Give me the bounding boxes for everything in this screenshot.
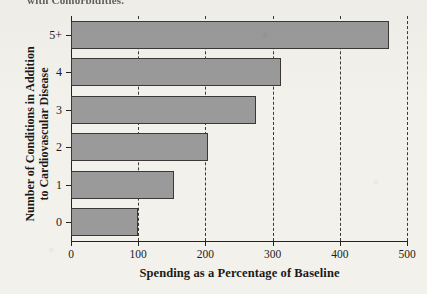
x-tick-label-500: 500 (398, 248, 415, 260)
bar-chart-figure: Spending as a Percentage of Baseline Num… (0, 0, 427, 294)
x-tick-200 (205, 241, 206, 246)
gridline-x-400 (340, 16, 341, 241)
bar-2 (71, 133, 208, 161)
bar-3 (71, 96, 256, 124)
gridline-x-500 (407, 16, 408, 241)
y-tick-label-3: 3 (36, 102, 62, 117)
y-tick-3 (66, 110, 71, 111)
bar-0 (71, 208, 138, 236)
bar-5+ (71, 21, 389, 49)
y-tick-1 (66, 185, 71, 186)
y-tick-label-1: 1 (36, 177, 62, 192)
y-tick-0 (66, 222, 71, 223)
bar-1 (71, 171, 174, 199)
y-tick-4 (66, 72, 71, 73)
x-axis-label: Spending as a Percentage of Baseline (71, 266, 408, 281)
x-tick-label-100: 100 (130, 248, 147, 260)
x-tick-label-200: 200 (197, 248, 214, 260)
x-axis-line (71, 241, 408, 242)
x-tick-400 (340, 241, 341, 246)
y-tick-5+ (66, 35, 71, 36)
gridline-x-100 (138, 16, 139, 241)
bar-4 (71, 58, 281, 86)
x-tick-label-400: 400 (331, 248, 348, 260)
x-tick-label-300: 300 (264, 248, 281, 260)
y-tick-2 (66, 147, 71, 148)
plot-area (71, 16, 407, 241)
y-axis-label-line-1: Number of Conditions in Addition (23, 19, 37, 249)
x-tick-label-0: 0 (68, 248, 74, 260)
y-tick-label-5+: 5+ (36, 27, 62, 42)
x-tick-300 (273, 241, 274, 246)
x-tick-0 (71, 241, 72, 246)
x-tick-500 (407, 241, 408, 246)
y-tick-label-0: 0 (36, 215, 62, 230)
gridline-x-200 (205, 16, 206, 241)
y-tick-label-4: 4 (36, 65, 62, 80)
gridline-x-300 (273, 16, 274, 241)
y-tick-label-2: 2 (36, 140, 62, 155)
x-tick-100 (138, 241, 139, 246)
